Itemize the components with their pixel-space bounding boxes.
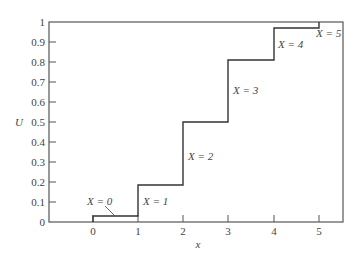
y-axis-label: U (15, 116, 24, 128)
y-tick-label: 0.1 (31, 196, 45, 208)
chart: 0 0.1 0.2 0.3 0.4 0.5 0.6 0.7 0.8 0.9 1 … (0, 0, 358, 261)
y-tick-label: 1 (40, 16, 46, 28)
annotation-leader (105, 206, 115, 216)
x-tick-label: 4 (271, 225, 277, 237)
annotation-x1: X = 1 (142, 195, 168, 207)
x-tick-label: 2 (180, 225, 186, 237)
y-tick-label: 0.3 (31, 156, 45, 168)
x-axis-label: x (195, 238, 201, 250)
y-tick-label: 0.4 (31, 136, 45, 148)
y-tick-label: 0.9 (31, 36, 45, 48)
y-tick-label: 0.5 (31, 116, 45, 128)
annotation-x2: X = 2 (187, 150, 214, 162)
annotation-x3: X = 3 (232, 84, 259, 96)
annotation-x5: X = 5 (315, 27, 342, 39)
x-tick-label: 1 (135, 225, 141, 237)
annotation-x0: X = 0 (86, 195, 113, 207)
annotation-x4: X = 4 (277, 38, 304, 50)
y-tick-label: 0 (40, 216, 46, 228)
y-axis (49, 42, 56, 202)
x-tick-label: 5 (316, 225, 322, 237)
y-tick-label: 0.8 (31, 56, 45, 68)
x-tick-label: 0 (90, 225, 96, 237)
y-tick-label: 0.6 (31, 96, 45, 108)
y-tick-label: 0.2 (31, 176, 45, 188)
x-tick-label: 3 (225, 225, 231, 237)
y-tick-label: 0.7 (31, 76, 45, 88)
step-series (93, 22, 319, 222)
